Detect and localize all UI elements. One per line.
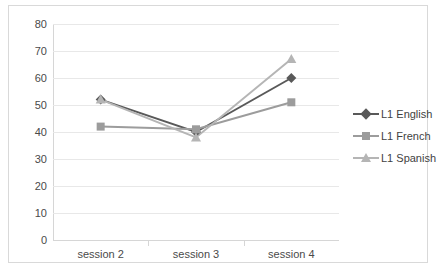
chart-frame: 01020304050607080 session 2session 3sess…: [8, 5, 428, 263]
legend-marker-diamond-icon: [360, 108, 371, 119]
chart-legend: L1 EnglishL1 FrenchL1 Spanish: [353, 103, 437, 169]
y-axis-tick-label: 60: [13, 73, 47, 84]
legend-label: L1 French: [379, 131, 431, 142]
legend-item: L1 English: [353, 103, 437, 125]
x-axis-tick-mark: [244, 241, 245, 246]
legend-marker-triangle-icon: [361, 153, 371, 162]
legend-swatch: [353, 130, 379, 142]
data-point-marker: [286, 54, 296, 63]
y-axis-tick-label: 20: [13, 181, 47, 192]
series-line: [101, 78, 292, 132]
legend-item: L1 Spanish: [353, 147, 437, 169]
legend-marker-square-icon: [362, 132, 370, 140]
x-axis-tick-label: session 3: [173, 249, 219, 260]
x-axis-tick-labels: session 2session 3session 4: [53, 249, 339, 265]
data-point-marker: [97, 123, 105, 131]
y-axis-tick-label: 50: [13, 100, 47, 111]
legend-item: L1 French: [353, 125, 437, 147]
series-line: [101, 102, 292, 129]
x-axis-tick-mark: [148, 241, 149, 246]
legend-swatch: [353, 152, 379, 164]
data-point-marker: [286, 73, 296, 83]
legend-label: L1 English: [379, 109, 432, 120]
y-axis-tick-label: 0: [13, 235, 47, 246]
x-axis-tick-label: session 2: [77, 249, 123, 260]
y-axis-tick-label: 10: [13, 208, 47, 219]
data-point-marker: [192, 125, 200, 133]
x-axis-tick-marks: [53, 241, 339, 247]
series-lines-and-markers: [53, 24, 339, 240]
y-axis-tick-label: 80: [13, 19, 47, 30]
data-point-marker: [287, 98, 295, 106]
plot-area: [53, 24, 339, 240]
legend-label: L1 Spanish: [379, 153, 436, 164]
x-axis-tick-label: session 4: [268, 249, 314, 260]
y-axis-tick-label: 30: [13, 154, 47, 165]
y-axis-tick-label: 70: [13, 46, 47, 57]
legend-swatch: [353, 108, 379, 120]
y-axis-tick-labels: 01020304050607080: [9, 24, 47, 240]
y-axis-tick-label: 40: [13, 127, 47, 138]
